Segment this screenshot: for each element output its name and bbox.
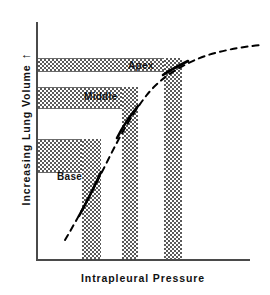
x-axis-line — [36, 259, 250, 261]
y-axis-title: Increasing Lung Volume↑ — [19, 19, 33, 239]
y-axis-title-text: Increasing Lung Volume — [20, 64, 32, 205]
x-axis-title: Intrapleural Pressure — [36, 272, 250, 284]
middle-zone-label: Middle — [84, 92, 117, 102]
apex-pressure-bar — [164, 58, 182, 259]
middle-pressure-bar — [122, 87, 138, 259]
apex-zone-label: Apex — [128, 61, 154, 71]
up-arrow-icon: ↑ — [19, 53, 33, 60]
lung-compliance-figure: Apex Middle Base Increasing Lung Volume↑… — [0, 0, 270, 295]
base-pressure-bar — [82, 139, 101, 259]
apex-zone-band — [38, 58, 182, 72]
base-zone-label: Base — [57, 172, 82, 182]
